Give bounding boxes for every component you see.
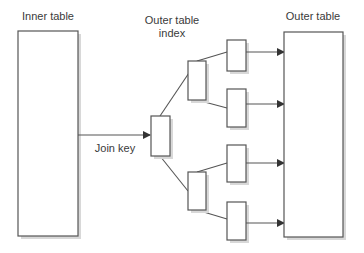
index-join-diagram: Inner table Outer table index Join key O… xyxy=(0,0,364,253)
edge-upper-leaf1 xyxy=(197,52,227,61)
outer-index-label-line1: Outer table xyxy=(145,14,199,26)
index-leaf-node-1 xyxy=(227,40,246,71)
index-leaf-node-2 xyxy=(227,89,246,127)
index-leaf-node-4 xyxy=(227,202,246,240)
edge-root-lower xyxy=(160,156,188,191)
index-branch-node-lower xyxy=(188,172,206,210)
outer-table-box xyxy=(284,32,343,237)
index-branch-node-upper xyxy=(188,61,206,100)
outer-table-label: Outer table xyxy=(286,10,340,22)
outer-index-label-line2: index xyxy=(159,27,186,39)
edge-lower-leaf3 xyxy=(197,163,227,172)
join-key-label: Join key xyxy=(95,142,136,154)
index-leaf-node-3 xyxy=(227,145,246,182)
index-root-node xyxy=(151,116,170,156)
inner-table-label: Inner table xyxy=(22,10,74,22)
inner-table-box xyxy=(18,31,78,236)
